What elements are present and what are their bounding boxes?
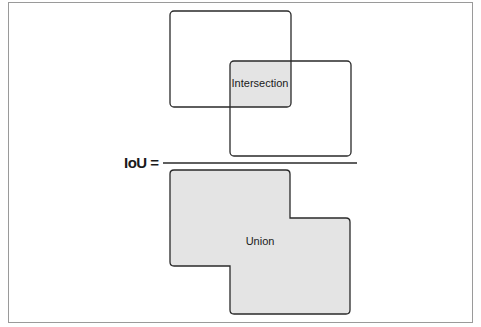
intersection-label: Intersection: [232, 77, 289, 89]
iou-equation-label: IoU =: [124, 154, 159, 171]
iou-diagram: Intersection IoU = Union: [0, 0, 481, 327]
union-label: Union: [246, 235, 275, 247]
